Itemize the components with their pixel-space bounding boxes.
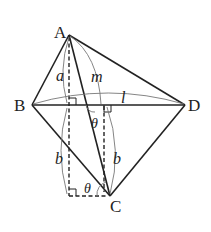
label-theta-bottom: θ (84, 181, 91, 196)
label-C: C (110, 197, 121, 216)
geometry-figure: A B D C a m l b b θ θ (0, 0, 211, 232)
dimension-arc-l (33, 93, 184, 104)
label-b-left: b (55, 150, 63, 167)
label-b-right: b (113, 150, 121, 167)
label-B: B (14, 96, 25, 115)
label-theta-top: θ (91, 116, 98, 131)
label-D: D (188, 96, 200, 115)
label-a: a (56, 67, 64, 84)
label-A: A (54, 23, 67, 42)
edge-AD (69, 35, 185, 105)
label-l: l (121, 89, 126, 106)
edge-DC (110, 105, 185, 196)
right-angle-marker-top-left (69, 98, 76, 105)
label-m: m (91, 68, 103, 85)
right-angle-marker-bottom-left (69, 189, 76, 196)
